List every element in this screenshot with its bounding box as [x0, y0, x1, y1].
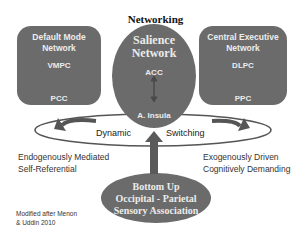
- cen-title-line1: Central Executive: [199, 32, 287, 43]
- right-caption-line1: Exogenously Driven: [203, 151, 290, 163]
- default-mode-network-box: Default Mode Network VMPC PCC: [17, 26, 101, 105]
- node-pcc: PCC: [17, 94, 101, 103]
- left-caption: Endogenously Mediated Self-Referential: [18, 151, 109, 175]
- node-anterior-insula: A. Insula: [124, 111, 184, 120]
- central-executive-network-box: Central Executive Network DLPC PPC: [199, 26, 287, 105]
- bottom-up-line2: Occipital - Parietal: [100, 193, 212, 205]
- dmn-title-line2: Network: [17, 43, 101, 54]
- diagram-title: Networking: [108, 13, 203, 25]
- node-dlpc: DLPC: [199, 61, 287, 70]
- node-ppc: PPC: [199, 94, 287, 103]
- left-caption-line2: Self-Referential: [18, 163, 109, 175]
- left-caption-line1: Endogenously Mediated: [18, 151, 109, 163]
- bottom-up-line3: Sensory Association: [100, 205, 212, 217]
- cen-title-line2: Network: [199, 43, 287, 54]
- ring-label-switching: Switching: [166, 128, 205, 138]
- citation: Modified after Menon & Uddin 2010: [16, 209, 77, 227]
- node-vmpc: VMPC: [17, 61, 101, 70]
- node-acc: ACC: [134, 68, 174, 77]
- dmn-title-line1: Default Mode: [17, 32, 101, 43]
- right-caption-line2: Cognitively Demanding: [203, 163, 290, 175]
- salience-network-title: Salience Network: [112, 34, 196, 60]
- curved-arrow-left: [62, 120, 96, 125]
- bottom-up-arrowhead-icon: [145, 131, 163, 142]
- citation-line2: & Uddin 2010: [16, 218, 77, 227]
- bottom-up-arrow-shaft: [150, 140, 158, 174]
- bottom-up-line1: Bottom Up: [100, 181, 212, 193]
- curved-arrow-right: [212, 121, 240, 126]
- right-caption: Exogenously Driven Cognitively Demanding: [203, 151, 290, 175]
- bottom-up-label: Bottom Up Occipital - Parietal Sensory A…: [100, 181, 212, 217]
- citation-line1: Modified after Menon: [16, 209, 77, 218]
- salience-title-line2: Network: [112, 47, 196, 60]
- ring-label-dynamic: Dynamic: [96, 128, 131, 138]
